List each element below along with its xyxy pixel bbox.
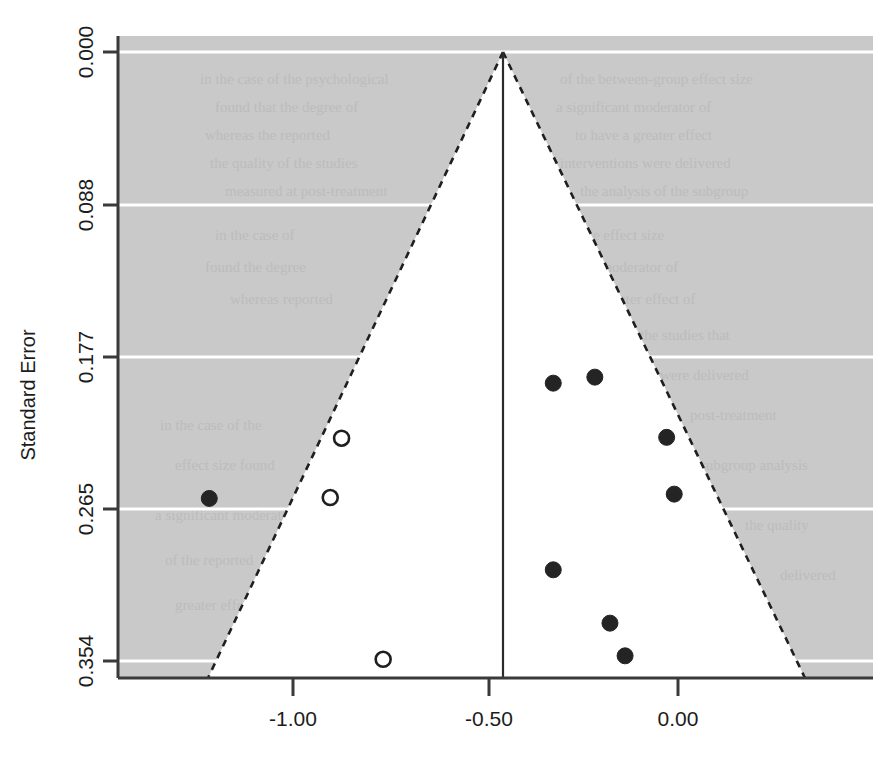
svg-text:post-treatment: post-treatment — [690, 407, 777, 423]
svg-text:the analysis of the subgroup: the analysis of the subgroup — [580, 183, 748, 199]
svg-text:subgroup analysis: subgroup analysis — [700, 457, 808, 473]
svg-text:measured at post-treatment: measured at post-treatment — [225, 183, 388, 199]
observed-study-marker — [545, 562, 561, 578]
svg-text:of the reported: of the reported — [165, 552, 254, 568]
y-tick-label: 0.088 — [74, 179, 97, 232]
y-axis-title: Standard Error — [17, 329, 39, 461]
svg-text:a significant moderator of: a significant moderator of — [556, 99, 711, 115]
y-tick-label: 0.177 — [74, 331, 97, 384]
observed-study-marker — [617, 648, 633, 664]
svg-text:whereas the reported: whereas the reported — [205, 127, 330, 143]
svg-text:delivered: delivered — [780, 567, 836, 583]
imputed-study-marker — [323, 490, 338, 505]
imputed-study-marker — [334, 431, 349, 446]
y-tick-label: 0.265 — [74, 483, 97, 536]
svg-text:the studies that: the studies that — [640, 327, 731, 343]
funnel-plot-svg: in the case of the psychological of the … — [0, 0, 873, 761]
svg-text:in the case of the: in the case of the — [160, 417, 262, 433]
x-tick-label: -1.00 — [269, 707, 317, 730]
observed-study-marker — [602, 615, 618, 631]
imputed-study-marker — [376, 652, 391, 667]
svg-text:of the between-group effect si: of the between-group effect size — [560, 71, 753, 87]
x-tick-label: 0.00 — [658, 707, 699, 730]
observed-study-marker — [659, 429, 675, 445]
svg-text:were delivered: were delivered — [660, 367, 749, 383]
svg-text:found that the degree of: found that the degree of — [215, 99, 358, 115]
svg-text:interventions were delivered: interventions were delivered — [560, 155, 731, 171]
svg-text:effect size found: effect size found — [175, 457, 275, 473]
observed-study-marker — [587, 369, 603, 385]
svg-text:in the case of: in the case of — [215, 227, 295, 243]
svg-text:to have a greater effect: to have a greater effect — [575, 127, 713, 143]
svg-text:the quality: the quality — [745, 517, 809, 533]
observed-study-marker — [201, 490, 217, 506]
svg-text:whereas reported: whereas reported — [230, 291, 333, 307]
svg-text:the quality of the studies: the quality of the studies — [210, 155, 358, 171]
funnel-plot-figure: in the case of the psychological of the … — [0, 0, 873, 761]
y-tick-label: 0.000 — [74, 26, 97, 79]
observed-study-marker — [545, 375, 561, 391]
x-tick-label: -0.50 — [465, 707, 513, 730]
svg-text:found the degree: found the degree — [205, 259, 306, 275]
y-tick-label: 0.354 — [74, 634, 97, 687]
svg-text:in the case of the psychologic: in the case of the psychological — [200, 71, 389, 87]
observed-study-marker — [666, 486, 682, 502]
